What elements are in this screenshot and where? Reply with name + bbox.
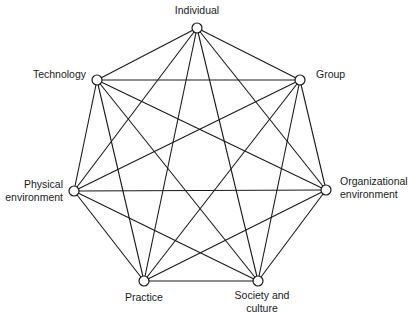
edge-physical_environment-technology	[74, 80, 97, 191]
edge-organizational_environment-society_and_culture	[258, 190, 326, 281]
label-practice: Practice	[125, 291, 163, 304]
node-technology	[92, 75, 102, 85]
edge-society_and_culture-physical_environment	[74, 191, 258, 281]
edge-organizational_environment-physical_environment	[74, 190, 326, 191]
edge-individual-practice	[144, 28, 197, 281]
label-organizational-environment: Organizational environment	[340, 175, 408, 200]
label-individual: Individual	[175, 4, 219, 17]
edge-individual-group	[197, 28, 300, 80]
node-organizational_environment	[321, 185, 331, 195]
edge-organizational_environment-practice	[144, 190, 326, 281]
label-physical-environment: Physical environment	[5, 178, 63, 203]
edge-individual-physical_environment	[74, 28, 197, 191]
edge-group-society_and_culture	[258, 80, 300, 281]
node-physical_environment	[69, 186, 79, 196]
edge-individual-technology	[97, 28, 197, 80]
edge-group-practice	[144, 80, 300, 281]
label-group: Group	[316, 68, 345, 81]
label-technology: Technology	[33, 68, 86, 81]
edges	[74, 28, 326, 281]
node-society_and_culture	[253, 276, 263, 286]
nodes	[69, 23, 331, 286]
edge-organizational_environment-technology	[97, 80, 326, 190]
node-group	[295, 75, 305, 85]
edge-group-physical_environment	[74, 80, 300, 191]
node-practice	[139, 276, 149, 286]
label-society-and-culture: Society and culture	[235, 289, 290, 314]
node-individual	[192, 23, 202, 33]
